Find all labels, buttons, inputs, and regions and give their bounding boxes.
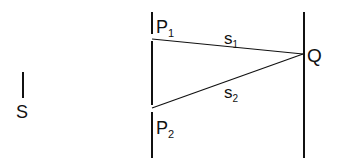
path2-label: s2	[224, 83, 239, 104]
source-label: S	[16, 102, 28, 122]
point-q-label: Q	[307, 45, 322, 66]
path1-label: s1	[224, 29, 239, 50]
slit1-label: P1	[156, 17, 174, 39]
double-slit-diagram: S P1 P2 s1 s2 Q	[0, 0, 339, 166]
slit2-label: P2	[156, 118, 174, 140]
